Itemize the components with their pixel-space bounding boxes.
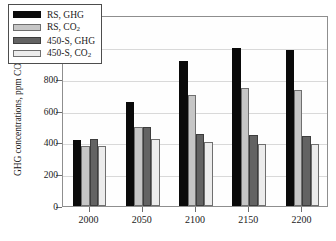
x-tick-label-2000: 2000 bbox=[59, 214, 119, 226]
x-tick-mark bbox=[89, 207, 90, 212]
x-tick-mark bbox=[248, 207, 249, 212]
x-tick-label-2200: 2200 bbox=[271, 214, 331, 226]
legend-label-subscript-1: 2 bbox=[77, 25, 81, 33]
x-tick-mark bbox=[301, 207, 302, 212]
x-tick-mark bbox=[142, 207, 143, 212]
bar-2150-series-1 bbox=[241, 88, 249, 206]
legend-entry-2: 450-S, GHG bbox=[13, 34, 95, 47]
legend-entry-3: 450-S, CO2 bbox=[13, 47, 95, 60]
bar-2150-series-2 bbox=[249, 135, 257, 206]
legend-label-2: 450-S, GHG bbox=[47, 36, 95, 46]
bar-2100-series-1 bbox=[188, 95, 196, 206]
legend-label-subscript-3: 2 bbox=[88, 51, 92, 59]
legend-label-1: RS, CO2 bbox=[47, 22, 80, 34]
legend-label-0: RS, GHG bbox=[47, 10, 84, 20]
x-tick-label-2150: 2150 bbox=[218, 214, 278, 226]
y-tick-label: 600 bbox=[14, 107, 58, 117]
legend-swatch-3 bbox=[13, 50, 41, 57]
x-tick-label-2100: 2100 bbox=[165, 214, 225, 226]
bar-2200-series-2 bbox=[302, 136, 310, 206]
legend-swatch-2 bbox=[13, 37, 41, 44]
bar-2100-series-0 bbox=[179, 61, 187, 206]
bar-2050-series-1 bbox=[134, 127, 142, 206]
legend-label-3: 450-S, CO2 bbox=[47, 48, 91, 60]
bar-2150-series-3 bbox=[258, 144, 266, 206]
bar-2000-series-2 bbox=[90, 139, 98, 206]
bar-2000-series-0 bbox=[73, 140, 81, 206]
y-tick-label: 800 bbox=[14, 75, 58, 85]
bar-2000-series-3 bbox=[98, 146, 106, 206]
legend-swatch-1 bbox=[13, 24, 41, 31]
bar-chart-figure: GHG concentrations, ppm CO2 (equiv.) 020… bbox=[0, 0, 336, 241]
bar-2150-series-0 bbox=[232, 48, 240, 206]
y-tick-label: 0 bbox=[14, 203, 58, 213]
bar-2100-series-2 bbox=[196, 134, 204, 206]
bar-2200-series-1 bbox=[294, 90, 302, 206]
bar-2050-series-0 bbox=[126, 102, 134, 206]
x-tick-label-2050: 2050 bbox=[112, 214, 172, 226]
bar-2100-series-3 bbox=[204, 142, 212, 206]
legend-entry-1: RS, CO2 bbox=[13, 21, 95, 34]
bar-2050-series-3 bbox=[151, 139, 159, 206]
x-tick-mark bbox=[195, 207, 196, 212]
chart-legend: RS, GHGRS, CO2450-S, GHG450-S, CO2 bbox=[8, 4, 102, 64]
legend-entry-0: RS, GHG bbox=[13, 8, 95, 21]
bar-2200-series-0 bbox=[286, 50, 294, 206]
legend-swatch-0 bbox=[13, 11, 41, 18]
bars-layer bbox=[63, 17, 327, 206]
bar-2000-series-1 bbox=[81, 146, 89, 206]
bar-2050-series-2 bbox=[143, 127, 151, 206]
bar-2200-series-3 bbox=[311, 144, 319, 206]
y-tick-label: 400 bbox=[14, 139, 58, 149]
y-tick-label: 200 bbox=[14, 171, 58, 181]
